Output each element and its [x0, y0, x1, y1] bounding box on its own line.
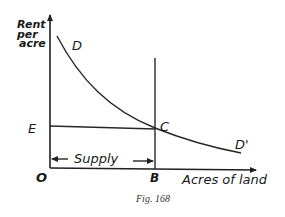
demand-curve: [57, 36, 241, 153]
label-d: D: [72, 38, 82, 53]
x-axis: [50, 168, 256, 170]
label-b: B: [150, 171, 159, 185]
supply-label: Supply: [74, 151, 119, 166]
label-e: E: [28, 121, 37, 136]
rent-diagram: Rent per acre D C D' E O B Supply Acres …: [0, 0, 285, 217]
label-d-prime: D': [235, 137, 249, 152]
y-axis-label-line3: acre: [19, 37, 46, 50]
label-c: C: [160, 119, 170, 134]
figure-caption: Fig. 168: [135, 193, 170, 204]
x-axis-label: Acres of land: [181, 172, 268, 187]
rent-level-line: [50, 126, 155, 129]
label-origin: O: [36, 170, 47, 185]
